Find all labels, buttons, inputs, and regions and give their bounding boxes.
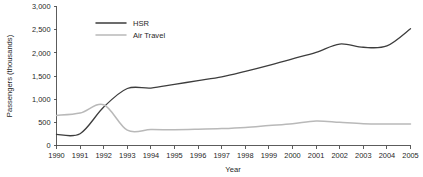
x-tick-label: 1998 [237, 151, 253, 160]
y-axis-tick-labels: 05001,0001,5002,0002,5003,000 [32, 2, 51, 150]
x-tick-label: 1993 [119, 151, 135, 160]
x-axis-tick-labels: 1990199119921993199419951996199719981999… [48, 151, 418, 160]
legend: HSR Air Travel [96, 19, 165, 40]
data-series-group [57, 29, 411, 136]
x-tick-label: 2004 [379, 151, 395, 160]
y-tick-label: 2,000 [32, 49, 51, 58]
x-tick-label: 1990 [48, 151, 64, 160]
x-tick-label: 1994 [143, 151, 159, 160]
x-tick-label: 2003 [355, 151, 371, 160]
y-tick-label: 0 [46, 141, 50, 150]
chart-container: 05001,0001,5002,0002,5003,000 1990199119… [0, 0, 423, 177]
x-tick-label: 1995 [166, 151, 182, 160]
x-tick-label: 2005 [402, 151, 418, 160]
x-tick-label: 1992 [95, 151, 111, 160]
x-tick-label: 1991 [72, 151, 88, 160]
y-tick-label: 3,000 [32, 2, 51, 11]
x-tick-label: 2002 [331, 151, 347, 160]
x-axis-title: Year [225, 165, 241, 174]
line-chart: 05001,0001,5002,0002,5003,000 1990199119… [0, 0, 423, 177]
legend-label-hsr: HSR [133, 19, 150, 28]
legend-label-air-travel: Air Travel [133, 31, 165, 40]
y-tick-label: 1,500 [32, 72, 51, 81]
y-tick-label: 500 [38, 118, 50, 127]
series-line-hsr [57, 29, 411, 136]
x-tick-label: 2000 [284, 151, 300, 160]
x-tick-label: 1999 [261, 151, 277, 160]
series-line-air-travel [57, 104, 411, 132]
y-axis-title: Passengers (thousands) [5, 34, 14, 117]
x-tick-label: 2001 [308, 151, 324, 160]
y-tick-label: 1,000 [32, 95, 51, 104]
x-tick-label: 1997 [213, 151, 229, 160]
y-tick-label: 2,500 [32, 25, 51, 34]
plot-area: 05001,0001,5002,0002,5003,000 1990199119… [32, 2, 419, 159]
x-tick-label: 1996 [190, 151, 206, 160]
